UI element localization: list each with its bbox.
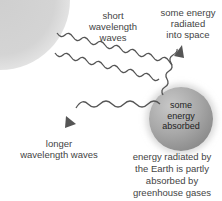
label-line: radiated [155, 18, 221, 29]
label-line: longer [12, 138, 106, 149]
label-line: waves [88, 32, 138, 43]
label-line: short [88, 10, 138, 21]
label-greenhouse: energy radiated by the Earth is partly a… [122, 151, 222, 199]
arrow-down-left-icon [65, 116, 76, 128]
label-line: the Earth is partly [122, 163, 222, 175]
incoming-wave-2 [55, 53, 159, 81]
label-line: into space [155, 29, 221, 40]
label-absorbed: some energy absorbed [155, 100, 207, 132]
label-line: energy radiated by [122, 151, 222, 163]
label-line: wavelength waves [12, 149, 106, 160]
label-line: absorbed [155, 121, 207, 132]
arrow-up-icon [174, 45, 184, 58]
label-line: wavelength [88, 21, 138, 32]
longer-wave [76, 101, 160, 108]
label-longer-waves: longer wavelength waves [12, 138, 106, 160]
label-line: some [155, 100, 207, 111]
label-line: energy [155, 111, 207, 122]
label-line: absorbed by [122, 175, 222, 187]
label-short-waves: short wavelength waves [88, 10, 138, 43]
label-radiated-space: some energy radiated into space [155, 7, 221, 40]
label-line: some energy [155, 7, 221, 18]
label-line: greenhouse gases [122, 187, 222, 199]
